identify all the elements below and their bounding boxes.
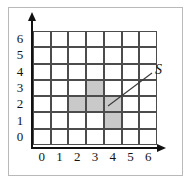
grid-cell [104, 129, 122, 145]
y-tick-label: 5 [13, 48, 27, 61]
grid-cell [33, 96, 51, 112]
grid-cell [68, 112, 86, 128]
grid-cell [33, 31, 51, 47]
grid-cell [33, 64, 51, 80]
grid-cell [51, 64, 69, 80]
grid-cell [68, 47, 86, 63]
x-tick-label: 4 [106, 150, 120, 163]
grid-cell-shaded [104, 112, 122, 128]
grid-cell [122, 64, 140, 80]
coordinate-grid [33, 31, 157, 145]
grid-cell [86, 64, 104, 80]
grid-cell [122, 129, 140, 145]
grid-cell [68, 80, 86, 96]
grid-cell [104, 31, 122, 47]
grid-cell [51, 129, 69, 145]
grid-cell [104, 47, 122, 63]
up-arrow-icon [28, 12, 36, 21]
grid-cell [33, 129, 51, 145]
grid-cell [122, 80, 140, 96]
figure-container: 6543210 0123456 S [0, 0, 191, 184]
x-tick-label: 6 [141, 150, 155, 163]
grid-cell [139, 31, 157, 47]
grid-cell [33, 112, 51, 128]
region-label-s: S [155, 62, 162, 78]
plot-area [33, 31, 157, 145]
grid-cell [139, 112, 157, 128]
x-tick-label: 2 [70, 150, 84, 163]
y-tick-label: 3 [13, 81, 27, 94]
grid-cell [51, 112, 69, 128]
grid-cell [139, 96, 157, 112]
y-tick-label: 0 [13, 130, 27, 143]
grid-cell [104, 64, 122, 80]
grid-cell [122, 47, 140, 63]
grid-cell [122, 112, 140, 128]
y-tick-label: 6 [13, 32, 27, 45]
grid-cell [33, 80, 51, 96]
grid-cell [86, 31, 104, 47]
x-tick-label: 1 [53, 150, 67, 163]
x-tick-label: 3 [88, 150, 102, 163]
y-tick-label: 4 [13, 65, 27, 78]
y-tick-label: 1 [13, 114, 27, 127]
grid-cell-shaded [68, 96, 86, 112]
grid-cell [139, 129, 157, 145]
grid-cell [51, 96, 69, 112]
grid-cell [33, 47, 51, 63]
y-tick-label: 2 [13, 97, 27, 110]
grid-cell [51, 80, 69, 96]
grid-cell-shaded [86, 96, 104, 112]
grid-cell [86, 112, 104, 128]
grid-cell-shaded [86, 80, 104, 96]
grid-cell [104, 80, 122, 96]
x-tick-label: 5 [123, 150, 137, 163]
right-arrow-icon [157, 144, 166, 152]
grid-cell-shaded [104, 96, 122, 112]
grid-cell [51, 47, 69, 63]
grid-cell [122, 96, 140, 112]
grid-cell [51, 31, 69, 47]
grid-cell [139, 80, 157, 96]
grid-cell [86, 47, 104, 63]
grid-cell [86, 129, 104, 145]
grid-cell [68, 31, 86, 47]
x-tick-label: 0 [35, 150, 49, 163]
grid-cell [68, 129, 86, 145]
grid-cell [68, 64, 86, 80]
grid-cell [122, 31, 140, 47]
y-axis [31, 19, 33, 149]
